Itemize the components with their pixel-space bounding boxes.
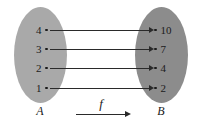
set-a-element-dot bbox=[45, 87, 48, 90]
mapping-arrow-head bbox=[149, 85, 154, 91]
set-a-element-dot bbox=[45, 29, 48, 32]
set-a-label: A bbox=[30, 104, 50, 119]
function-mapping-diagram: 4 3 2 1 10 7 4 2 A B f bbox=[0, 0, 201, 128]
set-b-element: 4 bbox=[154, 61, 188, 75]
set-b-element-dot bbox=[154, 48, 157, 51]
set-b-element-value: 7 bbox=[161, 42, 167, 56]
mapping-arrow-head bbox=[149, 27, 154, 33]
set-b-element-value: 4 bbox=[161, 61, 167, 75]
set-b-label: B bbox=[151, 104, 171, 119]
set-b-element-value: 10 bbox=[161, 23, 172, 37]
set-b-element-dot bbox=[154, 67, 157, 70]
function-arrow-head bbox=[125, 111, 131, 117]
set-a-element-value: 4 bbox=[36, 23, 42, 37]
mapping-arrow-line bbox=[50, 88, 150, 89]
set-a-element-dot bbox=[45, 67, 48, 70]
set-b-element: 10 bbox=[154, 23, 188, 37]
function-arrow-line bbox=[76, 114, 126, 115]
mapping-arrow-line bbox=[50, 68, 150, 69]
set-a-element-dot bbox=[45, 48, 48, 51]
mapping-arrow-line bbox=[50, 49, 150, 50]
function-label: f bbox=[94, 96, 108, 112]
set-b-element-dot bbox=[154, 29, 157, 32]
set-a-element: 2 bbox=[24, 61, 48, 75]
mapping-arrow-head bbox=[149, 65, 154, 71]
mapping-arrow-head bbox=[149, 46, 154, 52]
set-a-element: 3 bbox=[24, 42, 48, 56]
set-b-element: 2 bbox=[154, 81, 188, 95]
set-a-element-value: 2 bbox=[36, 61, 42, 75]
set-b-element-value: 2 bbox=[161, 81, 167, 95]
mapping-arrow-line bbox=[50, 30, 150, 31]
set-a-element: 4 bbox=[24, 23, 48, 37]
set-b-element: 7 bbox=[154, 42, 188, 56]
set-b-element-dot bbox=[154, 87, 157, 90]
set-a-element-value: 3 bbox=[36, 42, 42, 56]
set-a-element-value: 1 bbox=[36, 81, 42, 95]
set-a-element: 1 bbox=[24, 81, 48, 95]
